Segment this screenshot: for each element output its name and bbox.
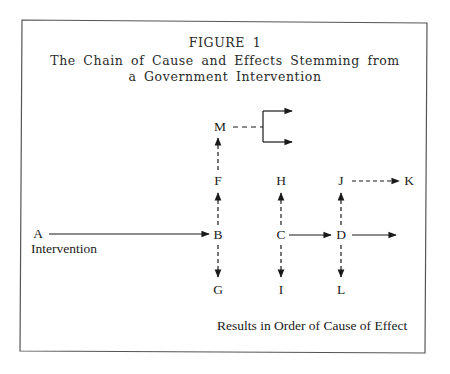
figure-title-line2: a Government Intervention [0, 69, 450, 84]
node-d: D [336, 227, 346, 243]
node-c: C [276, 227, 285, 243]
figure-caption: Results in Order of Cause of Effect [217, 318, 407, 334]
node-a-label-intervention: Intervention [31, 241, 97, 257]
figure-number: FIGURE 1 [0, 35, 450, 50]
node-k: K [404, 173, 414, 189]
node-h: H [276, 173, 286, 189]
node-g: G [213, 282, 223, 298]
node-l: L [337, 282, 345, 298]
node-a: A [33, 226, 43, 242]
node-j: J [338, 173, 343, 189]
figure-title-line1: The Chain of Cause and Effects Stemming … [0, 53, 450, 68]
node-i: I [279, 282, 284, 298]
node-b: B [213, 227, 222, 243]
node-f: F [214, 173, 222, 189]
node-m: M [214, 119, 226, 135]
